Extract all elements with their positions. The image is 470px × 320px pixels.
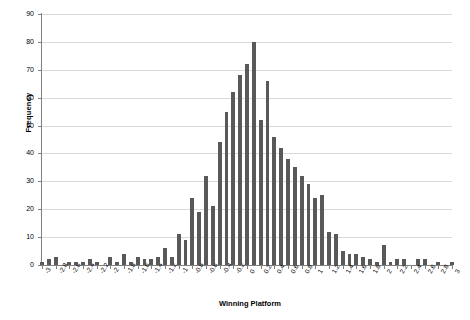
- bar: [74, 262, 78, 265]
- bar: [81, 262, 85, 265]
- bar: [204, 176, 208, 265]
- bar: [354, 254, 358, 265]
- bar: [389, 262, 393, 265]
- bar: [416, 259, 420, 265]
- y-tick-label: 40: [8, 149, 34, 156]
- bar: [252, 42, 256, 265]
- bar: [368, 259, 372, 265]
- y-tick-mark: [38, 70, 41, 71]
- bar: [122, 254, 126, 265]
- bar: [225, 112, 229, 265]
- bar: [67, 262, 71, 265]
- bar: [361, 257, 365, 265]
- x-tick-mark: [343, 266, 344, 269]
- bar: [375, 262, 379, 265]
- bar: [184, 240, 188, 265]
- y-tick-label: 60: [8, 94, 34, 101]
- bar: [320, 195, 324, 265]
- x-tick-label: 0: [248, 268, 256, 275]
- bar: [348, 254, 352, 265]
- x-tick-mark: [56, 266, 57, 269]
- y-tick-mark: [38, 181, 41, 182]
- bar: [54, 257, 58, 265]
- y-tick-mark: [38, 98, 41, 99]
- bar: [238, 75, 242, 265]
- bar: [108, 257, 112, 265]
- y-tick-label: 0: [8, 261, 34, 268]
- y-tick-mark: [38, 153, 41, 154]
- bar: [143, 259, 147, 265]
- bar: [245, 64, 249, 265]
- bar: [293, 167, 297, 265]
- histogram-chart: Frequency 0102030405060708090 -3-2.8-2.6…: [0, 0, 470, 320]
- bar: [231, 92, 235, 265]
- bar: [450, 262, 454, 265]
- bar: [149, 259, 153, 265]
- bar: [129, 262, 133, 265]
- x-tick-mark: [425, 266, 426, 269]
- x-tick-label: -3: [43, 266, 52, 275]
- x-tick-mark: [138, 266, 139, 269]
- y-tick-label: 20: [8, 205, 34, 212]
- bar: [334, 234, 338, 265]
- x-tick-label: 3: [453, 268, 461, 275]
- y-tick-mark: [38, 237, 41, 238]
- x-tick-mark: [302, 266, 303, 269]
- x-tick-mark: [384, 266, 385, 269]
- bar: [177, 234, 181, 265]
- bar: [300, 176, 304, 265]
- bar: [170, 257, 174, 265]
- x-tick-mark: [97, 266, 98, 269]
- x-tick-label: 1: [316, 268, 324, 275]
- y-tick-mark: [38, 42, 41, 43]
- bar: [197, 212, 201, 265]
- y-tick-mark: [38, 14, 41, 15]
- bar: [47, 259, 51, 265]
- x-axis-title: Winning Platform: [150, 299, 350, 308]
- bar: [95, 262, 99, 265]
- bar: [156, 257, 160, 265]
- y-tick-label: 10: [8, 233, 34, 240]
- x-tick-label: -1: [180, 266, 189, 275]
- bar: [163, 248, 167, 265]
- bar: [115, 262, 119, 265]
- x-tick-mark: [261, 266, 262, 269]
- bar: [402, 259, 406, 265]
- bar: [341, 251, 345, 265]
- x-tick-mark: [179, 266, 180, 269]
- bar: [40, 262, 44, 265]
- y-tick-mark: [38, 126, 41, 127]
- bar: [272, 137, 276, 265]
- x-tick-mark: [220, 266, 221, 269]
- bar: [286, 159, 290, 265]
- bar: [211, 206, 215, 265]
- x-tick-label: -2: [111, 266, 120, 275]
- bar-series: [42, 14, 452, 265]
- y-tick-label: 70: [8, 66, 34, 73]
- y-tick-label: 30: [8, 177, 34, 184]
- bar: [313, 198, 317, 265]
- y-tick-label: 50: [8, 122, 34, 129]
- y-tick-label: 80: [8, 38, 34, 45]
- x-tick-label: 2: [385, 268, 393, 275]
- bar: [136, 257, 140, 265]
- bar: [382, 245, 386, 265]
- bar: [259, 120, 263, 265]
- bar: [266, 81, 270, 265]
- bar: [279, 148, 283, 265]
- bar: [395, 259, 399, 265]
- bar: [218, 142, 222, 265]
- bar: [88, 259, 92, 265]
- y-tick-mark: [38, 209, 41, 210]
- bar: [327, 232, 331, 265]
- bar: [436, 262, 440, 265]
- bar: [423, 259, 427, 265]
- y-tick-label: 90: [8, 10, 34, 17]
- bar: [190, 198, 194, 265]
- y-axis-title: Frequency: [24, 63, 33, 163]
- y-tick-mark: [38, 265, 41, 266]
- bar: [307, 184, 311, 265]
